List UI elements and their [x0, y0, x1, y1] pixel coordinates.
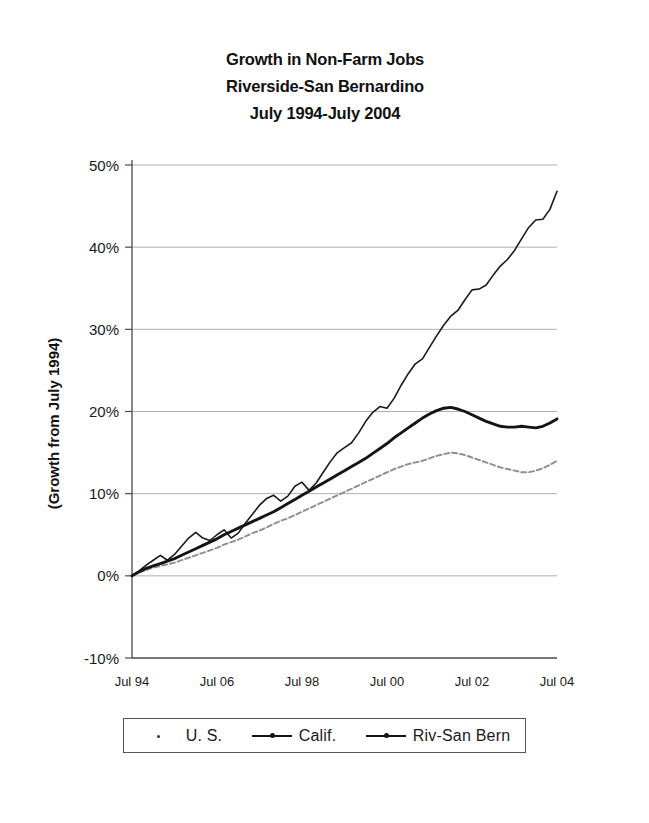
- x-tick-labels: Jul 94Jul 06Jul 98Jul 00Jul 02Jul 04: [115, 674, 575, 689]
- x-tick-label: Jul 98: [285, 674, 320, 689]
- dot-marker-icon: [139, 730, 179, 742]
- legend-item-us: U. S.: [139, 727, 223, 745]
- legend-item-calif: Calif.: [252, 727, 337, 745]
- legend-item-riv-san-bern: Riv-San Bern: [366, 727, 511, 745]
- line-dot-marker-icon: [252, 730, 292, 742]
- x-tick-label: Jul 04: [540, 674, 575, 689]
- tickmarks: [125, 165, 132, 658]
- line-dot-marker-icon: [366, 730, 406, 742]
- legend-label-calif: Calif.: [299, 727, 337, 745]
- legend-label-us: U. S.: [186, 727, 223, 745]
- y-tick-label: 0%: [97, 567, 119, 584]
- x-tick-label: Jul 02: [455, 674, 490, 689]
- gridlines: [132, 165, 557, 576]
- y-tick-labels: 50%40%30%20%10%0%-10%: [84, 157, 119, 667]
- legend-label-riv-san-bern: Riv-San Bern: [413, 727, 511, 745]
- y-tick-label: 40%: [89, 239, 119, 256]
- x-tick-label: Jul 06: [200, 674, 235, 689]
- y-tick-label: 20%: [89, 403, 119, 420]
- y-tick-label: 10%: [89, 485, 119, 502]
- y-tick-label: 30%: [89, 321, 119, 338]
- chart-svg: 50%40%30%20%10%0%-10% Jul 94Jul 06Jul 98…: [0, 0, 649, 823]
- chart-legend: U. S. Calif. Riv-San Bern: [123, 718, 526, 753]
- chart-figure: Growth in Non-Farm Jobs Riverside-San Be…: [0, 0, 649, 823]
- plot-area: 50%40%30%20%10%0%-10% Jul 94Jul 06Jul 98…: [0, 0, 649, 823]
- y-tick-label: 50%: [89, 157, 119, 174]
- x-tick-label: Jul 00: [370, 674, 405, 689]
- series-line-riv-san-bern: [132, 191, 557, 576]
- x-tick-label: Jul 94: [115, 674, 150, 689]
- y-tick-label: -10%: [84, 650, 119, 667]
